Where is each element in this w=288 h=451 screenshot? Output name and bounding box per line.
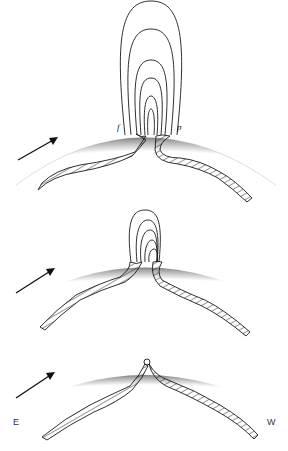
label-west: W bbox=[267, 417, 276, 427]
flux-emergence-diagram bbox=[0, 0, 288, 451]
magnetic-loops-top bbox=[120, 1, 181, 135]
sun-limb-bottom bbox=[16, 375, 276, 420]
label-preceding-polarity: p bbox=[177, 122, 182, 132]
arrow-top bbox=[18, 137, 58, 160]
panel-top bbox=[16, 1, 276, 202]
panel-middle bbox=[16, 210, 276, 336]
panel-bottom bbox=[16, 359, 276, 440]
arrow-bottom bbox=[16, 372, 55, 398]
label-following-polarity: f bbox=[117, 122, 120, 132]
magnetic-loops-middle bbox=[129, 210, 160, 262]
label-east: E bbox=[13, 417, 19, 427]
